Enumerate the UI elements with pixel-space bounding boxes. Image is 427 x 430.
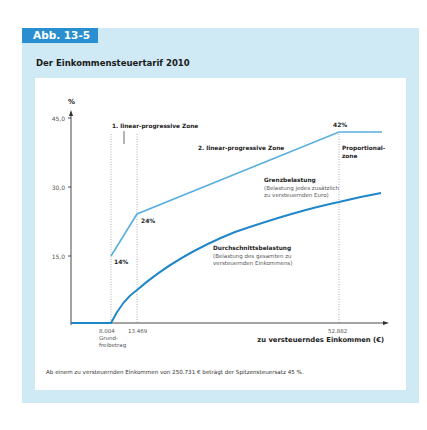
y-axis-arrow-icon [69,110,73,116]
grenz-desc-line1: (Belastung jedes zusätzlich [264,185,340,192]
durch-title: Durchschnittsbelastung [213,245,291,252]
zone1-label: 1. linear-progressive Zone [112,123,198,130]
guide-lines [111,134,339,323]
x-tick-13469: 13.469 [128,328,148,334]
chart: % 45,0 30,0 15,0 1. linear-progressive Z… [0,0,427,430]
point-label-24: 24% [141,217,155,224]
x-tick-8004: 8.004 [99,328,115,334]
zone3-label-line1: Proportional- [342,145,386,152]
x-tick-8004-sub1: Grund- [99,335,118,341]
y-tick-30: 30,0 [52,184,66,191]
y-tick-15: 15,0 [52,253,66,260]
x-axis-arrow-icon [383,321,389,325]
grenz-title: Grenzbelastung [264,177,316,184]
y-unit-label: % [68,98,75,106]
durch-desc-line1: (Belastung des gesamten zu [213,253,292,260]
grenz-desc-line2: zu versteuernden Euro) [264,192,329,198]
y-tick-45: 45,0 [52,115,66,122]
point-label-42: 42% [333,121,347,128]
footnote: Ab einem zu versteuernden Einkommen von … [46,369,304,375]
x-tick-8004-sub2: freibetrag [99,342,126,349]
zone2-label: 2. linear-progressive Zone [198,145,284,152]
zone3-label-line2: zone [342,153,357,159]
point-label-14: 14% [114,258,128,265]
durch-desc-line2: versteuernden Einkommens) [213,260,292,266]
x-tick-52882: 52.882 [328,328,347,334]
x-axis-label: zu versteuerndes Einkommen (€) [257,336,384,344]
